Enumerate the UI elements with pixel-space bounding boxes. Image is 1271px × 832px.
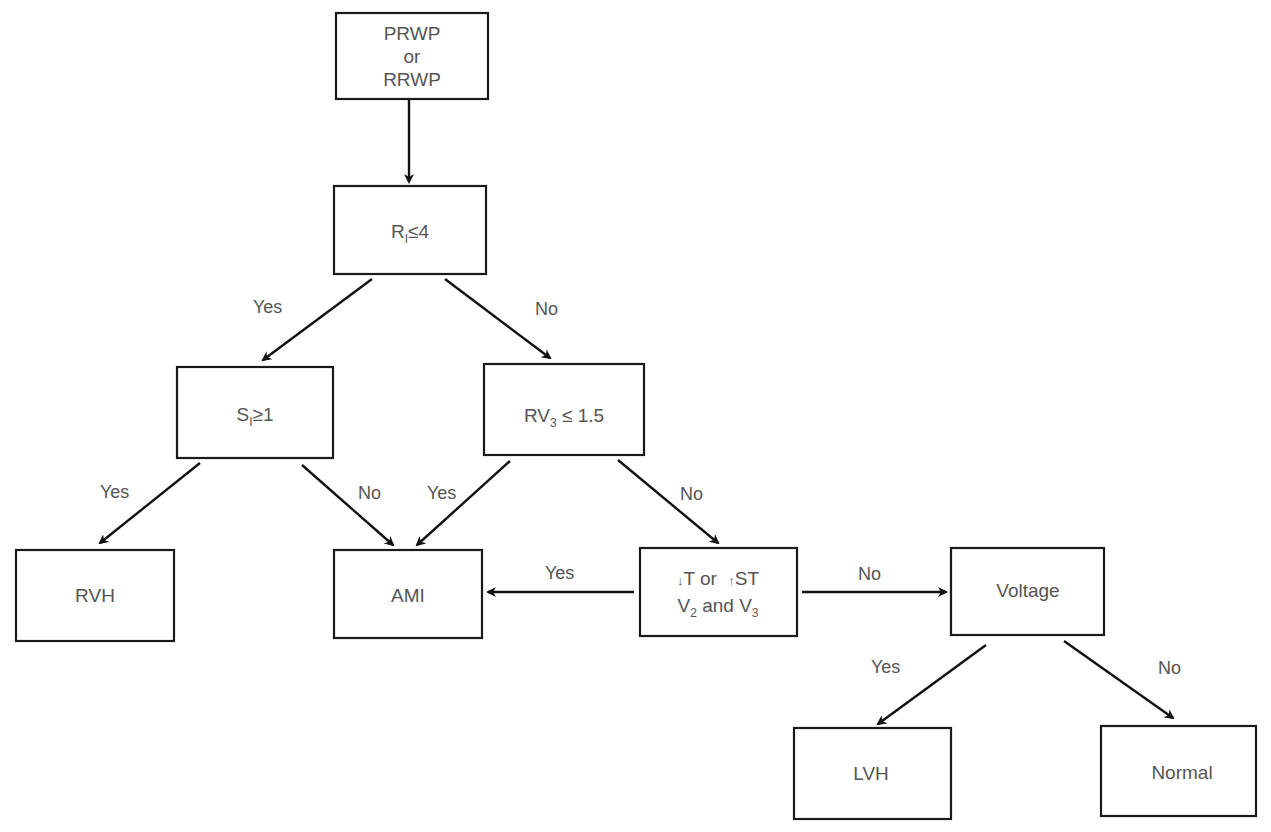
node-ri-le-4: RI≤4	[334, 186, 486, 274]
node-prwp-or-rrwp: PRWP or RRWP	[336, 13, 488, 99]
edge-label-voltage-no: No	[1158, 658, 1181, 678]
node-label: AMI	[391, 585, 425, 606]
node-ami: AMI	[334, 550, 482, 638]
node-label: LVH	[853, 763, 889, 784]
node-lvh: LVH	[794, 728, 951, 819]
node-label: Voltage	[996, 580, 1059, 601]
node-line-1: ↓T or ↑ST	[677, 568, 759, 589]
edge-label-r1-yes: Yes	[253, 297, 282, 317]
edge-label-r1-no: No	[535, 299, 558, 319]
node-t-or-st-v2-v3: ↓T or ↑ST V2 and V3	[640, 548, 797, 636]
edge-label-rv3-no: No	[680, 484, 703, 504]
node-rv3-le-1-5: RV3 ≤ 1.5	[484, 364, 644, 455]
edge-s1-to-rvh	[100, 463, 200, 543]
node-normal: Normal	[1101, 726, 1256, 816]
edge-r1-to-s1	[263, 279, 372, 360]
edge-label-s1-yes: Yes	[100, 482, 129, 502]
node-si-ge-1: SI≥1	[177, 367, 333, 458]
edge-label-s1-no: No	[358, 483, 381, 503]
edge-label-voltage-yes: Yes	[871, 657, 900, 677]
edge-voltage-to-normal	[1064, 641, 1173, 718]
node-line-1: PRWP	[384, 23, 441, 44]
node-rvh: RVH	[16, 550, 174, 641]
flowchart-canvas: Yes No Yes No Yes No Yes No Yes No PRWP …	[0, 0, 1271, 832]
edge-label-tst-yes: Yes	[545, 563, 574, 583]
edge-s1-to-ami	[302, 465, 393, 545]
node-label: Normal	[1151, 762, 1212, 783]
node-line-3: RRWP	[383, 69, 441, 90]
node-line-2: or	[404, 46, 422, 67]
edge-rv3-to-ami	[417, 461, 510, 545]
node-label: RVH	[75, 585, 115, 606]
edge-label-rv3-yes: Yes	[427, 483, 456, 503]
node-voltage: Voltage	[951, 548, 1104, 635]
node-box	[640, 548, 797, 636]
edge-label-tst-no: No	[858, 564, 881, 584]
